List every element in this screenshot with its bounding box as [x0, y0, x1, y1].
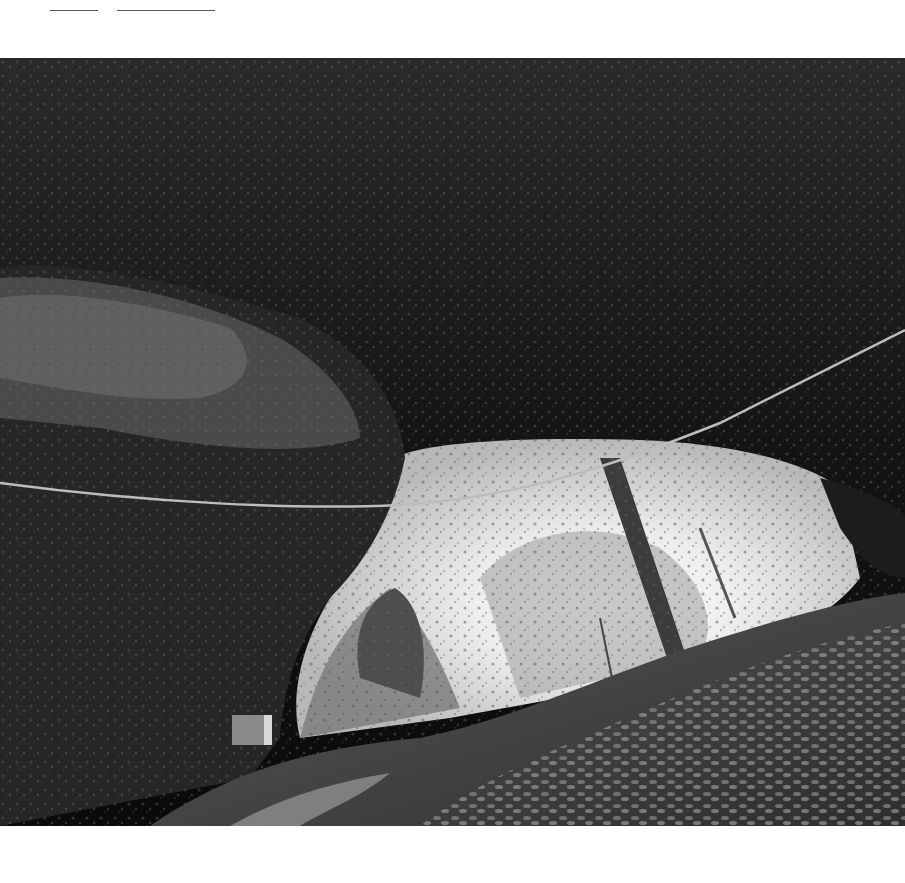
- header-link-1[interactable]: [50, 10, 98, 11]
- header-link-2[interactable]: [117, 10, 215, 11]
- photo-illustration: [0, 58, 905, 826]
- cave-arch-photo: [0, 58, 905, 826]
- header-links: [0, 0, 905, 20]
